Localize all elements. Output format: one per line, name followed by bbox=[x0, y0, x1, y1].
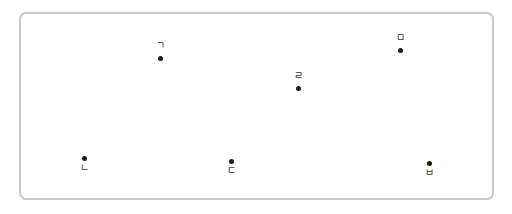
point-label: ㅂ bbox=[422, 168, 436, 178]
point-label: ㄱ bbox=[153, 41, 167, 51]
point-label: ㄴ bbox=[77, 163, 91, 173]
point-dot-icon bbox=[229, 159, 234, 164]
point-dot-icon bbox=[82, 156, 87, 161]
point-dot-icon bbox=[158, 56, 163, 61]
point-dot-icon bbox=[398, 48, 403, 53]
point-dot-icon bbox=[296, 86, 301, 91]
artifact-speck bbox=[105, 125, 106, 126]
point-label: ㄷ bbox=[224, 166, 238, 176]
point-label: ㄹ bbox=[291, 71, 305, 81]
point-label: ㅁ bbox=[393, 33, 407, 43]
point-dot-icon bbox=[427, 161, 432, 166]
